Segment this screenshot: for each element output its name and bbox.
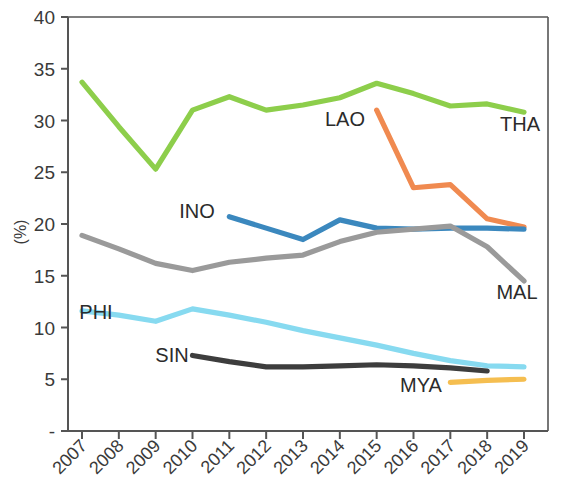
x-tick-label: 2012: [233, 436, 275, 478]
x-tick-label: 2009: [122, 436, 164, 478]
x-tick-label: 2013: [269, 436, 311, 478]
x-tick-label: 2014: [306, 436, 348, 478]
series-label-phi: PHI: [79, 301, 112, 323]
series-label-lao: LAO: [325, 108, 365, 130]
x-tick-label: 2007: [48, 436, 90, 478]
series-label-mya: MYA: [400, 374, 443, 396]
y-tick-label: 40: [34, 7, 55, 28]
y-axis-title: (%): [12, 220, 29, 245]
x-tick-label: 2015: [343, 436, 385, 478]
y-tick-label: 35: [34, 59, 55, 80]
y-axis-ticks: [61, 17, 68, 431]
x-tick-label: 2011: [197, 436, 239, 478]
x-tick-label: 2017: [417, 436, 459, 478]
y-tick-label: 10: [34, 318, 55, 339]
series-line-mya: [450, 379, 524, 382]
x-tick-label: 2010: [159, 436, 201, 478]
series-label-ino: INO: [179, 200, 215, 222]
x-tick-label: 2018: [454, 436, 496, 478]
y-axis-tick-labels: -510152025303540: [34, 7, 55, 442]
x-tick-label: 2016: [380, 436, 422, 478]
y-axis-title-text: (%): [12, 220, 29, 245]
line-chart: -510152025303540 20072008200920102011201…: [0, 0, 566, 483]
y-tick-label: -: [49, 421, 55, 442]
x-tick-label: 2019: [490, 436, 532, 478]
series-line-tha: [82, 82, 524, 169]
series-line-phi: [82, 309, 524, 367]
y-tick-label: 25: [34, 162, 55, 183]
series-line-mal: [82, 226, 524, 281]
series-label-sin: SIN: [155, 344, 188, 366]
series-lines: [82, 82, 524, 382]
y-tick-label: 20: [34, 214, 55, 235]
x-tick-label: 2008: [85, 436, 127, 478]
series-line-ino: [229, 217, 524, 240]
y-tick-label: 30: [34, 111, 55, 132]
series-label-tha: THA: [500, 113, 541, 135]
chart-canvas: -510152025303540 20072008200920102011201…: [0, 0, 566, 483]
x-axis-tick-labels: 2007200820092010201120122013201420152016…: [48, 436, 532, 478]
y-tick-label: 15: [34, 266, 55, 287]
series-label-mal: MAL: [496, 281, 537, 303]
y-tick-label: 5: [44, 369, 55, 390]
